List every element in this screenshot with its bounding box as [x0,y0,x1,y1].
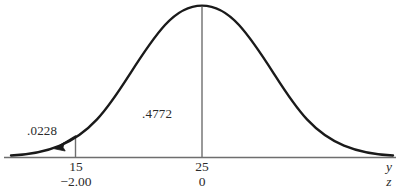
tick-label-z-center: 0 [199,175,206,189]
axis-name-y: y [386,160,392,174]
tick-label-z-left: −2.00 [60,175,91,189]
tick-label-y-center: 25 [195,160,209,174]
tail-area-label: .0228 [27,124,57,137]
tick-label-y-left: 15 [69,160,83,174]
body-area-label: .4772 [142,107,172,120]
axis-name-z: z [386,175,391,189]
normal-curve-figure: .0228 .4772 15 −2.00 25 0 y z [0,0,399,192]
